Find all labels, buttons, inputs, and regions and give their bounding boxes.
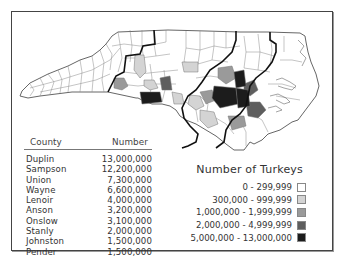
legend-label: 0 - 299,999 [242, 182, 292, 192]
county-number: 2,000,000 [107, 226, 152, 236]
county-name: Anson [24, 205, 53, 215]
legend-swatch [297, 221, 306, 230]
header-county: County [30, 137, 62, 147]
legend-swatch [297, 208, 306, 217]
county-table: County Number Duplin13,000,000 Sampson12… [24, 137, 152, 257]
legend-title: Number of Turkeys [176, 163, 303, 176]
legend-swatch [297, 183, 306, 192]
county-number: 3,200,000 [107, 205, 152, 215]
county-low-3 [172, 92, 184, 104]
legend-label: 300,000 - 999,999 [212, 195, 292, 205]
county-number: 6,600,000 [107, 185, 152, 195]
legend-label: 1,000,000 - 1,999,999 [196, 207, 292, 217]
legend-label: 5,000,000 - 13,000,000 [190, 233, 292, 243]
county-wayne [234, 70, 246, 88]
county-low-5 [182, 62, 198, 72]
county-name: Sampson [24, 164, 66, 174]
county-name: Stanly [24, 226, 54, 236]
table-row: Wayne6,600,000 [24, 185, 152, 195]
county-number: 1,500,000 [107, 236, 152, 246]
legend-swatch [297, 195, 306, 204]
county-number: 3,100,000 [107, 216, 152, 226]
legend-item: 0 - 299,999 [176, 181, 306, 194]
legend-swatch [297, 233, 306, 242]
table-row: Stanly2,000,000 [24, 226, 152, 236]
legend-item: 300,000 - 999,999 [176, 194, 306, 207]
table-row: Onslow3,100,000 [24, 216, 152, 226]
table-header: County Number [24, 137, 152, 150]
county-number: 1,500,000 [107, 247, 152, 257]
table-row: Pender1,500,000 [24, 247, 152, 257]
table-row: Union7,300,000 [24, 175, 152, 185]
county-name: Pender [24, 247, 57, 257]
legend-item: 2,000,000 - 4,999,999 [176, 219, 306, 232]
county-number: 4,000,000 [107, 195, 152, 205]
legend-label: 2,000,000 - 4,999,999 [196, 220, 292, 230]
county-anson [160, 76, 172, 90]
county-number: 13,000,000 [102, 154, 152, 164]
county-name: Lenoir [24, 195, 53, 205]
county-union [140, 92, 162, 104]
county-name: Johnston [24, 236, 64, 246]
table-row: Johnston1,500,000 [24, 236, 152, 246]
county-number: 7,300,000 [107, 175, 152, 185]
legend-item: 5,000,000 - 13,000,000 [176, 231, 306, 244]
county-number: 12,200,000 [102, 164, 152, 174]
legend-item: 1,000,000 - 1,999,999 [176, 206, 306, 219]
table-row: Anson3,200,000 [24, 205, 152, 215]
table-row: Duplin13,000,000 [24, 154, 152, 164]
table-row: Lenoir4,000,000 [24, 195, 152, 205]
county-name: Wayne [24, 185, 56, 195]
county-name: Union [24, 175, 51, 185]
county-name: Onslow [24, 216, 58, 226]
county-name: Duplin [24, 154, 54, 164]
header-number: Number [112, 137, 148, 147]
map-legend: Number of Turkeys 0 - 299,999 300,000 - … [176, 163, 306, 244]
table-row: Sampson12,200,000 [24, 164, 152, 174]
